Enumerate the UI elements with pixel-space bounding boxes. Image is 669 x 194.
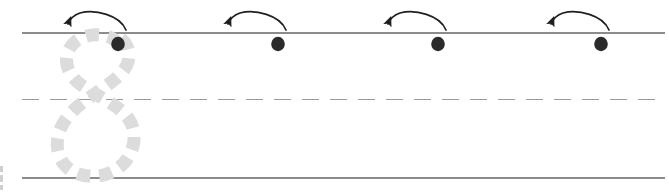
edge-artifacts-layer — [0, 0, 669, 194]
left-edge-speck-2 — [0, 175, 3, 182]
left-edge-speck-1 — [0, 166, 3, 172]
handwriting-worksheet: Number 8 Handwriting Tracing Practice Ro… — [0, 0, 669, 194]
left-edge-speck-3 — [0, 185, 3, 190]
